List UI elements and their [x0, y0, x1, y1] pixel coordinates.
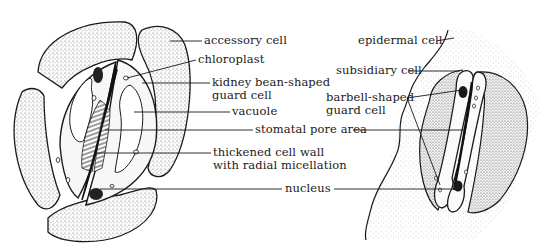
label-epidermal-cell: epidermal cell	[358, 34, 443, 47]
label-subsidiary-cell: subsidiary cell	[336, 64, 422, 77]
label-chloroplast: chloroplast	[198, 53, 264, 66]
label-accessory-cell: accessory cell	[204, 34, 287, 47]
label-vacuole: vacuole	[232, 105, 277, 118]
right-stoma-figure	[365, 28, 540, 240]
stomata-diagram: accessory cell chloroplast kidney bean-s…	[0, 0, 547, 248]
nucleus-top	[93, 67, 103, 83]
label-nucleus: nucleus	[285, 182, 331, 195]
nucleus-right-bottom	[454, 181, 463, 192]
label-stomatal-pore-area: stomatal pore area	[255, 123, 367, 136]
accessory-cell-left	[14, 89, 60, 209]
nucleus-right-top	[459, 86, 468, 98]
nucleus-bottom	[89, 188, 103, 200]
label-guard-cell-kidney-line2: guard cell	[212, 89, 272, 102]
left-stoma-figure	[14, 22, 190, 242]
label-thickened-wall-line2: with radial micellation	[213, 159, 347, 172]
label-barbell-guard-cell-line2: guard cell	[326, 104, 386, 117]
